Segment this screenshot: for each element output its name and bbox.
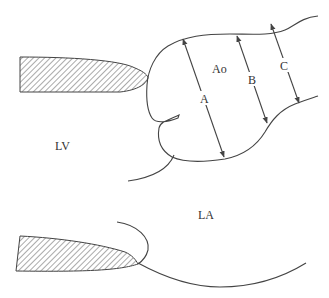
label-measure-b: B	[248, 73, 256, 87]
anterior-mitral-curve	[128, 155, 174, 181]
left-atrium-posterior-curve	[138, 263, 306, 287]
aortic-root-outline	[147, 16, 318, 161]
label-measure-c: C	[280, 59, 288, 73]
label-left-ventricle: LV	[55, 139, 70, 153]
septum-hatched-shape	[20, 57, 148, 92]
label-aorta: Ao	[212, 62, 227, 76]
posterior-wall-hatched-shape	[16, 236, 138, 271]
echocardiogram-aortic-root-diagram: A B C Ao LV LA	[0, 0, 329, 298]
label-left-atrium: LA	[198, 208, 214, 222]
label-measure-a: A	[200, 92, 209, 106]
